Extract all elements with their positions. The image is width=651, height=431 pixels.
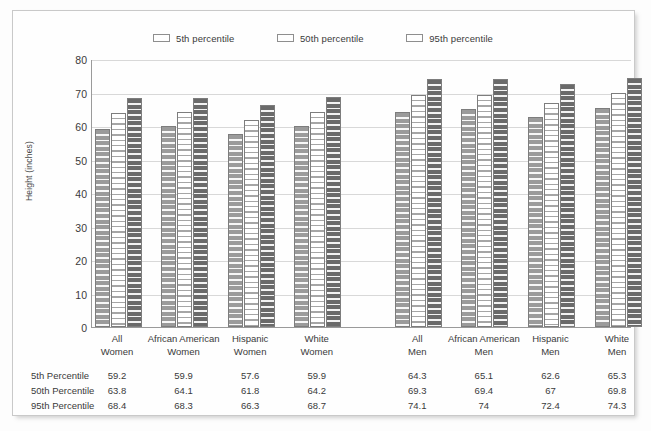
table-row-label: 95th Percentile bbox=[31, 400, 117, 411]
table-cell: 65.3 bbox=[608, 370, 627, 381]
x-axis-label: WhiteWomen bbox=[300, 333, 333, 358]
bar[interactable] bbox=[528, 117, 543, 327]
legend-item-50th-percentile[interactable]: 50th percentile bbox=[277, 33, 364, 44]
table-cell: 72.4 bbox=[541, 400, 560, 411]
bar-group bbox=[460, 60, 510, 327]
y-axis-tick-40: 40 bbox=[75, 188, 87, 200]
table-cell: 66.3 bbox=[241, 400, 260, 411]
table-cell: 59.9 bbox=[307, 370, 326, 381]
figure-root: 5th percentile 50th percentile 95th perc… bbox=[0, 0, 651, 431]
legend-swatch-50th-percentile-icon bbox=[277, 34, 294, 42]
y-axis-tick-50: 50 bbox=[75, 155, 87, 167]
bar-group bbox=[593, 60, 643, 327]
bar[interactable] bbox=[161, 126, 176, 327]
y-axis-tick-80: 80 bbox=[75, 54, 87, 66]
x-axis-label: AllWomen bbox=[101, 333, 134, 358]
table-cell: 74.1 bbox=[408, 400, 427, 411]
bar-group bbox=[393, 60, 443, 327]
bar[interactable] bbox=[244, 120, 259, 327]
table-row-label: 5th Percentile bbox=[31, 370, 117, 381]
y-axis-tick-60: 60 bbox=[75, 121, 87, 133]
table-cell: 62.6 bbox=[541, 370, 560, 381]
table-cell: 68.4 bbox=[108, 400, 127, 411]
x-axis-label: AllMen bbox=[408, 333, 426, 358]
table-cell: 61.8 bbox=[241, 385, 260, 396]
bar[interactable] bbox=[310, 112, 325, 327]
data-table: 5th Percentile59.259.957.659.964.365.162… bbox=[31, 370, 631, 416]
plot-area bbox=[91, 60, 631, 328]
table-cell: 59.2 bbox=[108, 370, 127, 381]
bar[interactable] bbox=[95, 129, 110, 327]
chart-legend: 5th percentile 50th percentile 95th perc… bbox=[153, 29, 493, 47]
y-axis-title: Height (inches) bbox=[24, 111, 34, 231]
legend-label-50th-percentile: 50th percentile bbox=[300, 33, 364, 44]
chart-frame: 5th percentile 50th percentile 95th perc… bbox=[12, 10, 635, 416]
x-axis-label: HispanicWomen bbox=[232, 333, 268, 358]
bar[interactable] bbox=[228, 134, 243, 327]
y-axis-tick-labels: 01020304050607080 bbox=[57, 60, 87, 328]
table-cell: 69.8 bbox=[608, 385, 627, 396]
bar[interactable] bbox=[461, 109, 476, 327]
y-axis-tick-0: 0 bbox=[81, 322, 87, 334]
bar[interactable] bbox=[493, 79, 508, 327]
bar[interactable] bbox=[294, 126, 309, 327]
table-cell: 64.1 bbox=[174, 385, 193, 396]
legend-label-5th-percentile: 5th percentile bbox=[176, 33, 234, 44]
bar-group bbox=[293, 60, 343, 327]
bar[interactable] bbox=[127, 98, 142, 327]
legend-label-95th-percentile: 95th percentile bbox=[429, 33, 493, 44]
bar[interactable] bbox=[560, 84, 575, 327]
table-row-label: 50th Percentile bbox=[31, 385, 117, 396]
x-axis-label: African AmericanMen bbox=[448, 333, 520, 358]
bar[interactable] bbox=[326, 97, 341, 327]
y-axis-tick-10: 10 bbox=[75, 289, 87, 301]
table-row: 95th Percentile68.468.366.368.774.17472.… bbox=[31, 400, 631, 414]
table-row: 5th Percentile59.259.957.659.964.365.162… bbox=[31, 370, 631, 384]
x-axis-label: WhiteMen bbox=[605, 333, 629, 358]
bar[interactable] bbox=[611, 93, 626, 327]
bar[interactable] bbox=[427, 79, 442, 327]
table-cell: 74.3 bbox=[608, 400, 627, 411]
table-cell: 63.8 bbox=[108, 385, 127, 396]
bar[interactable] bbox=[111, 113, 126, 327]
legend-swatch-5th-percentile-icon bbox=[153, 34, 170, 42]
table-cell: 59.9 bbox=[174, 370, 193, 381]
y-axis-tick-20: 20 bbox=[75, 255, 87, 267]
bar[interactable] bbox=[411, 95, 426, 327]
bar[interactable] bbox=[395, 112, 410, 327]
bar[interactable] bbox=[193, 98, 208, 327]
table-cell: 64.3 bbox=[408, 370, 427, 381]
bar[interactable] bbox=[260, 105, 275, 327]
bar[interactable] bbox=[544, 103, 559, 327]
bar-group bbox=[226, 60, 276, 327]
bar[interactable] bbox=[477, 95, 492, 327]
x-axis-category-labels: AllWomenAfrican AmericanWomenHispanicWom… bbox=[91, 333, 631, 363]
table-cell: 68.7 bbox=[307, 400, 326, 411]
x-axis-label: African AmericanWomen bbox=[148, 333, 220, 358]
bars-layer bbox=[92, 60, 631, 327]
bar-group bbox=[526, 60, 576, 327]
bar[interactable] bbox=[595, 108, 610, 327]
bar[interactable] bbox=[627, 78, 642, 327]
bar-group bbox=[93, 60, 143, 327]
bar-group bbox=[160, 60, 210, 327]
table-cell: 65.1 bbox=[475, 370, 494, 381]
x-axis-label: HispanicMen bbox=[532, 333, 568, 358]
table-cell: 74 bbox=[479, 400, 490, 411]
table-cell: 64.2 bbox=[307, 385, 326, 396]
table-cell: 67 bbox=[545, 385, 556, 396]
bar[interactable] bbox=[177, 112, 192, 327]
legend-swatch-95th-percentile-icon bbox=[406, 34, 423, 42]
legend-item-5th-percentile[interactable]: 5th percentile bbox=[153, 33, 234, 44]
table-cell: 69.4 bbox=[475, 385, 494, 396]
y-axis-tick-70: 70 bbox=[75, 88, 87, 100]
table-cell: 68.3 bbox=[174, 400, 193, 411]
legend-item-95th-percentile[interactable]: 95th percentile bbox=[406, 33, 493, 44]
table-row: 50th Percentile63.864.161.864.269.369.46… bbox=[31, 385, 631, 399]
y-axis-tick-30: 30 bbox=[75, 222, 87, 234]
table-cell: 57.6 bbox=[241, 370, 260, 381]
table-cell: 69.3 bbox=[408, 385, 427, 396]
